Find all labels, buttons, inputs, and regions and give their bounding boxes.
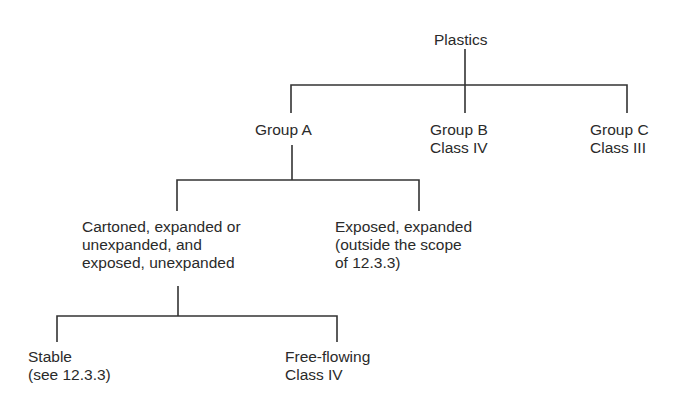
node-free-flowing: Free-flowing Class IV (285, 348, 370, 384)
node-label: Group C (590, 121, 649, 139)
node-label: Class IV (430, 139, 488, 157)
node-label: Stable (28, 348, 111, 366)
plastics-classification-diagram: Plastics Group A Group B Class IV Group … (0, 0, 698, 412)
node-group-a: Group A (255, 121, 312, 139)
node-label: Class III (590, 139, 649, 157)
node-label: unexpanded, and (82, 236, 241, 254)
node-stable: Stable (see 12.3.3) (28, 348, 111, 384)
node-label: Plastics (434, 31, 487, 49)
node-label: Cartoned, expanded or (82, 218, 241, 236)
node-label: Group B (430, 121, 488, 139)
connector-level1-bar (291, 85, 627, 113)
node-label: Exposed, expanded (335, 218, 472, 236)
node-cartoned: Cartoned, expanded or unexpanded, and ex… (82, 218, 241, 272)
node-label: Free-flowing (285, 348, 370, 366)
connector-level3-bar (57, 316, 337, 342)
node-label: of 12.3.3) (335, 254, 472, 272)
node-label: exposed, unexpanded (82, 254, 241, 272)
node-group-c: Group C Class III (590, 121, 649, 157)
node-label: (see 12.3.3) (28, 366, 111, 384)
connector-level2-bar (177, 180, 419, 211)
node-plastics: Plastics (434, 31, 487, 49)
node-exposed-expanded: Exposed, expanded (outside the scope of … (335, 218, 472, 272)
node-label: (outside the scope (335, 236, 472, 254)
node-label: Group A (255, 121, 312, 139)
node-label: Class IV (285, 366, 370, 384)
node-group-b: Group B Class IV (430, 121, 488, 157)
